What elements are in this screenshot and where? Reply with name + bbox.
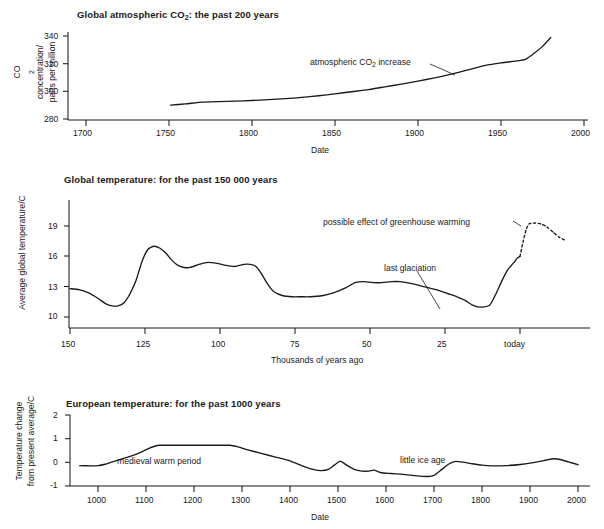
chart-svg-global-temperature (0, 165, 604, 380)
leader-line-co2-annotation (430, 64, 455, 75)
data-curve-co2 (171, 37, 551, 105)
chart-svg-co2 (0, 0, 604, 165)
leader-line-greenhouse-annotation (513, 221, 521, 226)
chart-panel-co2: Global atmospheric CO2: the past 200 yea… (0, 0, 604, 165)
chart-panel-global-temperature: Global temperature: for the past 150 000… (0, 165, 604, 380)
climate-figure: Global atmospheric CO2: the past 200 yea… (0, 0, 604, 529)
chart-panel-european-temperature: European temperature: for the past 1000 … (0, 380, 604, 529)
chart-svg-european-temperature (0, 380, 604, 529)
data-curve-global-temperature (70, 246, 520, 307)
data-curve-european-temperature (80, 445, 578, 476)
data-curve-greenhouse-projection (520, 223, 565, 256)
